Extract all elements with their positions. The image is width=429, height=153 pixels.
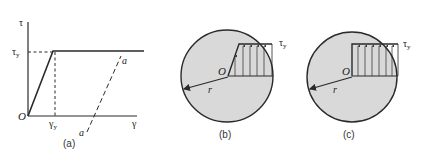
line-a-top-label: a — [122, 55, 127, 66]
line-a-bottom-label: a — [79, 127, 84, 138]
yield-strain-label: γy — [48, 118, 57, 131]
radius-label-b: r — [208, 84, 212, 95]
gamma-axis-label: γ — [131, 118, 137, 129]
caption-b: (b) — [219, 129, 231, 140]
radius-label-c: r — [333, 84, 337, 95]
origin-label-c: O — [342, 65, 350, 77]
panel-b-partially-plastic-section: O r τy (b) — [181, 30, 287, 140]
origin-label: O — [18, 110, 26, 122]
unloading-line-a-a — [87, 56, 121, 132]
origin-label-b: O — [218, 65, 226, 77]
yield-stress-label-c: τy — [403, 38, 411, 51]
panel-a-stress-strain: τ τy O γy γ a a (a) — [12, 17, 144, 149]
caption-a: (a) — [63, 138, 75, 149]
panel-c-fully-plastic-section: O r τy (c) — [307, 32, 411, 140]
yield-stress-label-b: τy — [279, 37, 287, 50]
figure-canvas: τ τy O γy γ a a (a) O r τy (b) — [0, 0, 429, 153]
yield-stress-label: τy — [12, 46, 20, 59]
caption-c: (c) — [343, 129, 355, 140]
tau-axis-label: τ — [19, 17, 23, 28]
